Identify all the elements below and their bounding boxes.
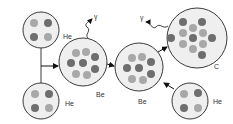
helium-nucleus-bottom: He	[23, 83, 74, 119]
gamma-1-label: γ	[94, 13, 98, 21]
gamma-2-label: γ	[140, 14, 144, 22]
beryllium-nucleus-1: Be	[59, 38, 107, 98]
c-label: C	[214, 63, 219, 70]
arrow-be-to-be	[107, 64, 114, 66]
wavy-arrow-icon	[146, 22, 168, 28]
gamma-photon-2: γ	[140, 14, 168, 28]
helium-nucleus-top: He	[23, 12, 72, 48]
triple-alpha-diagram: He He Be γ	[0, 0, 233, 124]
be-1-label: Be	[96, 91, 105, 98]
arrow-he-to-be2	[164, 83, 174, 89]
he-bottom-label: He	[65, 100, 74, 107]
arrow-be-to-c	[158, 47, 167, 52]
he-top-label: He	[63, 33, 72, 40]
helium-nucleus-right: He	[172, 83, 222, 119]
beryllium-nucleus-2: Be	[115, 43, 163, 105]
he-right-label: He	[213, 98, 222, 105]
wavy-arrow-icon	[86, 19, 92, 38]
be-2-label: Be	[138, 98, 147, 105]
carbon-nucleus: C	[167, 8, 227, 70]
gamma-photon-1: γ	[86, 13, 98, 38]
